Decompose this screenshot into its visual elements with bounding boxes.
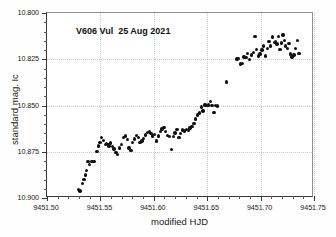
data-point xyxy=(172,135,175,138)
data-point xyxy=(164,130,167,133)
data-point xyxy=(294,47,297,50)
data-point xyxy=(248,58,251,61)
chart-annotation: V606 Vul 25 Aug 2021 xyxy=(76,26,170,36)
data-point xyxy=(201,109,204,112)
data-point xyxy=(84,173,87,176)
y-axis-tick xyxy=(42,106,47,107)
data-point xyxy=(281,33,284,36)
data-point xyxy=(225,80,228,83)
x-axis-minor-tick xyxy=(122,196,123,199)
data-point xyxy=(131,141,134,144)
data-point xyxy=(162,126,165,129)
data-point xyxy=(155,139,158,142)
y-axis-minor-tick xyxy=(44,87,47,88)
x-axis-tick xyxy=(207,196,208,201)
data-point xyxy=(216,104,219,107)
data-point xyxy=(153,133,156,136)
data-point xyxy=(264,54,267,57)
x-axis-minor-tick xyxy=(68,196,69,199)
y-axis-minor-tick xyxy=(44,161,47,162)
y-axis-minor-tick xyxy=(44,189,47,190)
data-point xyxy=(170,148,173,151)
data-point xyxy=(252,51,255,54)
y-axis-minor-tick xyxy=(44,143,47,144)
data-point xyxy=(287,42,290,45)
data-point xyxy=(97,144,100,147)
y-axis-minor-tick xyxy=(44,78,47,79)
x-axis-minor-tick xyxy=(250,196,251,199)
y-axis-minor-tick xyxy=(44,115,47,116)
x-axis-tick-label: 9451.70 xyxy=(247,203,272,212)
data-point xyxy=(286,47,289,50)
x-axis-tick-label: 9451.60 xyxy=(140,203,165,212)
data-point xyxy=(192,122,195,125)
x-axis-minor-tick xyxy=(282,196,283,199)
data-point xyxy=(81,182,84,185)
y-axis-minor-tick xyxy=(44,180,47,181)
x-axis-minor-tick xyxy=(293,196,294,199)
x-gridline xyxy=(261,13,262,196)
data-point xyxy=(255,48,258,51)
data-point xyxy=(78,189,81,192)
x-axis-tick xyxy=(100,196,101,201)
data-point xyxy=(280,41,283,44)
data-point xyxy=(292,53,295,56)
data-point xyxy=(133,137,136,140)
y-axis-minor-tick xyxy=(44,50,47,51)
x-axis-minor-tick xyxy=(218,196,219,199)
x-gridline xyxy=(100,13,101,196)
data-point xyxy=(253,35,256,38)
y-gridline xyxy=(47,106,312,107)
x-axis-tick xyxy=(154,196,155,201)
data-point xyxy=(179,132,182,135)
data-point xyxy=(194,117,197,120)
data-point xyxy=(85,169,88,172)
x-axis-minor-tick xyxy=(175,196,176,199)
data-point xyxy=(98,141,101,144)
data-point xyxy=(116,153,119,156)
data-point xyxy=(120,143,123,146)
y-axis-tick-label: 10.825 xyxy=(18,54,39,63)
x-axis-tick-label: 9451.75 xyxy=(300,203,325,212)
x-axis-tick-label: 9451.65 xyxy=(194,203,219,212)
data-point xyxy=(82,178,85,181)
data-point xyxy=(212,111,215,114)
data-point xyxy=(92,160,95,163)
data-point xyxy=(283,39,286,42)
data-point xyxy=(277,35,280,38)
y-axis-tick-label: 10.800 xyxy=(18,8,39,17)
plot-area xyxy=(46,12,313,197)
data-point xyxy=(275,42,278,45)
data-point xyxy=(267,40,270,43)
data-point xyxy=(209,100,212,103)
y-axis-tick-label: 10.900 xyxy=(18,193,39,202)
data-point xyxy=(129,149,132,152)
data-point xyxy=(175,128,178,131)
data-point xyxy=(250,53,253,56)
y-axis-tick-label: 10.850 xyxy=(18,100,39,109)
y-gridline xyxy=(47,152,312,153)
data-point xyxy=(271,35,274,38)
data-point xyxy=(177,136,180,139)
x-axis-minor-tick xyxy=(143,196,144,199)
data-point xyxy=(262,44,265,47)
y-axis-minor-tick xyxy=(44,22,47,23)
data-point xyxy=(88,163,91,166)
x-gridline xyxy=(154,13,155,196)
data-point xyxy=(258,52,261,55)
y-axis-minor-tick xyxy=(44,170,47,171)
data-point xyxy=(297,52,300,55)
x-axis-minor-tick xyxy=(164,196,165,199)
x-gridline xyxy=(314,13,315,196)
x-axis-tick-label: 9451.55 xyxy=(87,203,112,212)
y-axis-minor-tick xyxy=(44,32,47,33)
y-axis-minor-tick xyxy=(44,133,47,134)
y-gridline xyxy=(47,59,312,60)
x-axis-tick xyxy=(261,196,262,201)
data-point xyxy=(296,39,299,42)
data-point xyxy=(142,137,145,140)
x-axis-minor-tick xyxy=(197,196,198,199)
data-point xyxy=(157,134,160,137)
x-axis-tick xyxy=(314,196,315,201)
x-axis-tick xyxy=(47,196,48,201)
